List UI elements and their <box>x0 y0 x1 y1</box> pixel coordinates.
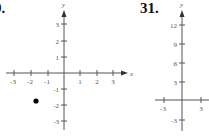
left-x-arrow-icon <box>121 71 128 76</box>
left-x-label: x <box>129 70 134 78</box>
svg-text:2: 2 <box>95 78 99 86</box>
plotted-point <box>33 98 38 103</box>
figures-svg: y x -3 -2 -1 1 2 3 3 2 1 -1 -2 -3 y -3 3 <box>0 0 209 138</box>
svg-text:9: 9 <box>174 41 178 49</box>
right-y-tick-labels: 12 9 6 3 -3 <box>170 22 178 125</box>
left-y-label: y <box>61 1 66 9</box>
right-y-arrow-icon <box>180 10 185 17</box>
left-y-arrow-icon <box>62 10 67 17</box>
svg-text:2: 2 <box>56 38 60 46</box>
svg-text:3: 3 <box>199 105 203 113</box>
svg-text:1: 1 <box>78 78 82 86</box>
svg-text:6: 6 <box>174 60 178 68</box>
svg-text:-3: -3 <box>160 105 166 113</box>
svg-text:12: 12 <box>170 22 178 30</box>
svg-text:-3: -3 <box>53 118 59 126</box>
svg-text:-3: -3 <box>171 117 177 125</box>
svg-text:3: 3 <box>56 21 60 29</box>
left-graph <box>6 14 123 130</box>
svg-text:-2: -2 <box>53 102 59 110</box>
right-graph <box>155 14 209 131</box>
svg-text:3: 3 <box>111 78 115 86</box>
svg-text:-1: -1 <box>53 86 59 94</box>
svg-text:3: 3 <box>174 79 178 87</box>
right-y-label: y <box>179 1 184 9</box>
svg-text:1: 1 <box>56 54 60 62</box>
svg-text:-1: -1 <box>44 78 50 86</box>
svg-text:-3: -3 <box>10 78 16 86</box>
svg-text:-2: -2 <box>27 78 33 86</box>
left-x-tick-labels: -3 -2 -1 1 2 3 <box>10 78 115 86</box>
